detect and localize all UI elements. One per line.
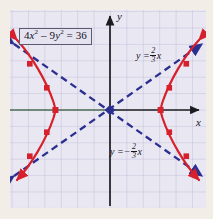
equation-x-power: 2 — [35, 28, 39, 36]
asymptote-negative-variable: x — [137, 146, 141, 157]
equation-equals-sign: = — [67, 29, 73, 41]
equation-y-power: 2 — [60, 28, 64, 36]
asymptote-positive-lhs: y = — [136, 50, 150, 61]
equation-minus-sign: – — [41, 29, 47, 41]
asymptote-negative-lhs: y = — [110, 146, 124, 157]
hyperbola-figure: 4x2 – 9y2 = 36 y x y =23x y =−23x — [0, 0, 213, 219]
equation-right-hand-side: 36 — [76, 29, 87, 41]
asymptote-positive-label: y =23x — [136, 47, 161, 64]
vertex-left-marker — [52, 107, 58, 113]
y-axis-label: y — [117, 10, 122, 22]
equation-label-box: 4x2 – 9y2 = 36 — [19, 28, 92, 45]
asymptote-positive-denominator: 3 — [150, 56, 156, 64]
asymptote-negative-label: y =−23x — [110, 143, 142, 160]
vertex-right-marker — [158, 107, 164, 113]
asymptote-negative-sign: − — [124, 146, 131, 157]
x-axis-label: x — [196, 116, 201, 128]
asymptote-positive-variable: x — [157, 50, 161, 61]
asymptote-positive-fraction: 23 — [150, 47, 156, 64]
